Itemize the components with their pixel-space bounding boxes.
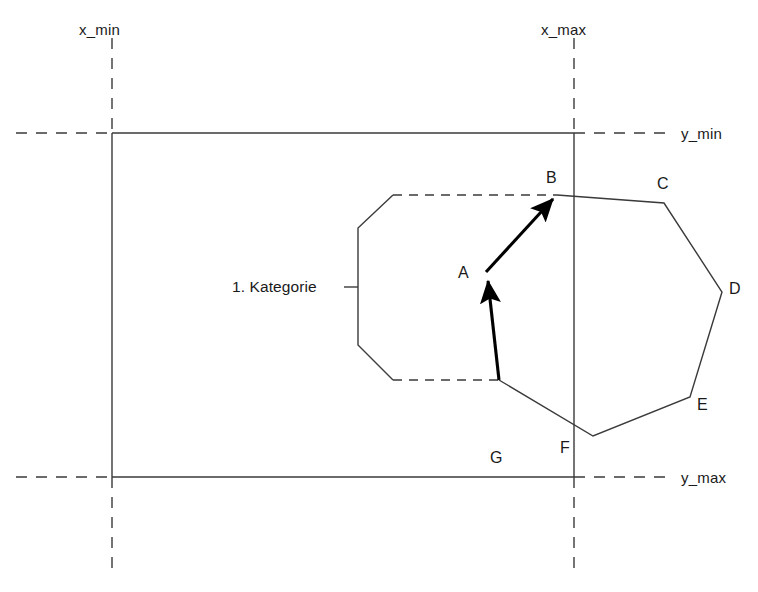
label-vertex-c: C <box>657 176 669 192</box>
label-vertex-a: A <box>458 265 469 281</box>
highlighted-edges <box>486 199 553 380</box>
label-vertex-b: B <box>546 170 557 186</box>
polygon-heptagon <box>499 195 722 436</box>
edge-g-to-a-arrow <box>488 281 499 380</box>
category-edge-left-solid <box>358 195 393 380</box>
bounding-box-guides <box>16 38 672 576</box>
label-y-min: y_min <box>681 126 722 141</box>
label-x-max: x_max <box>541 22 586 37</box>
label-y-max: y_max <box>681 470 726 485</box>
label-x-min: x_min <box>79 22 120 37</box>
polygon-thin-edges <box>499 195 722 436</box>
label-vertex-d: D <box>729 281 741 297</box>
edge-a-to-b-arrow <box>486 199 553 272</box>
label-vertex-g: G <box>490 450 502 466</box>
label-vertex-e: E <box>697 397 708 413</box>
label-vertex-f: F <box>560 440 570 456</box>
category-region-outline <box>344 195 557 380</box>
diagram-vector-layer <box>0 0 758 592</box>
label-category-1: 1. Kategorie <box>232 279 317 295</box>
diagram-canvas: x_min x_max y_min y_max 1. Kategorie A B… <box>0 0 758 592</box>
